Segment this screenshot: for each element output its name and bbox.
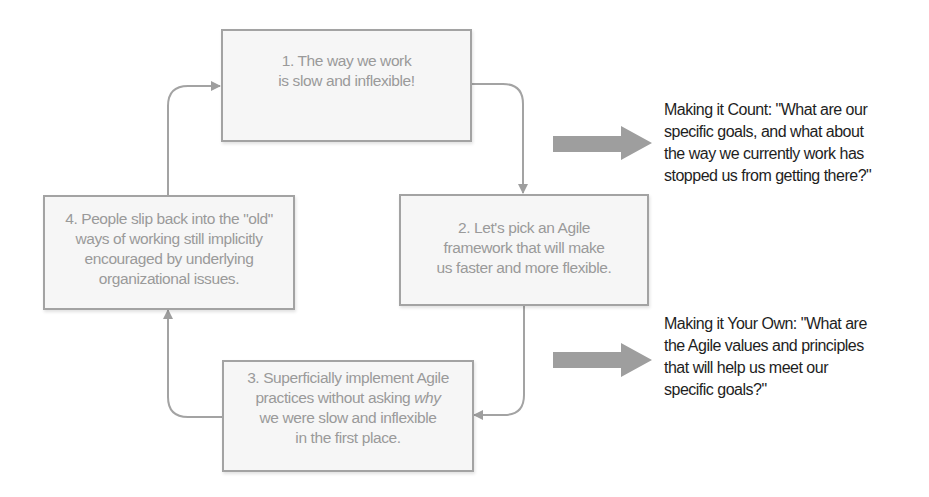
connector-2-to-3 — [474, 305, 524, 415]
box-4: 4. People slip back into the "old" ways … — [43, 195, 295, 310]
note-line: that will help us meet our — [664, 357, 924, 379]
box-1-line: 1. The way we work — [223, 51, 470, 71]
note-line: Making it Count: "What are our — [664, 99, 924, 121]
note-making-it-count: Making it Count: "What are our specific … — [664, 99, 924, 187]
box-3-line: 3. Superficially implement Agile — [224, 368, 472, 388]
note-line: stopped us from getting there?" — [664, 165, 924, 187]
box-4-line: encouraged by underlying — [45, 249, 293, 269]
note-line: specific goals?" — [664, 379, 924, 401]
box-1: 1. The way we work is slow and inflexibl… — [221, 29, 472, 142]
box-3-line: practices without asking why — [224, 388, 472, 408]
box-3-line-text: practices without asking — [255, 389, 414, 406]
box-1-line: is slow and inflexible! — [223, 71, 470, 91]
connector-4-to-1 — [168, 86, 220, 195]
connector-1-to-2 — [471, 84, 523, 193]
box-3-line: in the first place. — [224, 428, 472, 448]
box-4-line: ways of working still implicitly — [45, 229, 293, 249]
block-arrow-icon — [553, 126, 652, 160]
box-3-line: we were slow and inflexible — [224, 408, 472, 428]
note-line: Making it Your Own: "What are — [664, 313, 924, 335]
note-line: specific goals, and what about — [664, 121, 924, 143]
block-arrow-icon — [553, 343, 652, 377]
box-2-line: 2. Let's pick an Agile — [401, 218, 647, 238]
note-making-it-your-own: Making it Your Own: "What are the Agile … — [664, 313, 924, 401]
box-2: 2. Let's pick an Agile framework that wi… — [399, 194, 649, 306]
box-3-emphasis: why — [414, 389, 440, 406]
box-2-line: framework that will make — [401, 238, 647, 258]
note-line: the way we currently work has — [664, 143, 924, 165]
note-line: the Agile values and principles — [664, 335, 924, 357]
box-3: 3. Superficially implement Agile practic… — [222, 360, 474, 472]
box-2-line: us faster and more flexible. — [401, 258, 647, 278]
box-4-line: 4. People slip back into the "old" — [45, 209, 293, 229]
box-4-line: organizational issues. — [45, 269, 293, 289]
connector-3-to-4 — [168, 310, 222, 417]
